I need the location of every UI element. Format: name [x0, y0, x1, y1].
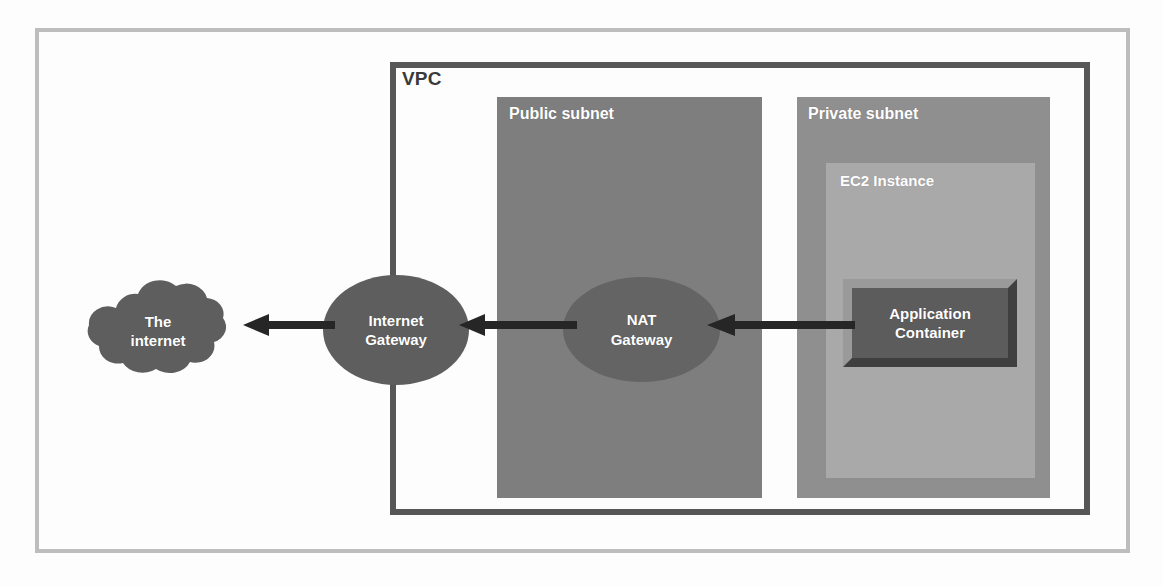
arrow-internet-gateway-to-internet — [243, 314, 335, 336]
arrow-application-container-to-nat-gateway — [707, 314, 855, 336]
nat-gateway-label: NAT Gateway — [611, 310, 673, 349]
application-container-node: Application Container — [843, 279, 1017, 367]
left-arrow-icon — [459, 314, 577, 336]
private-subnet-label: Private subnet — [808, 105, 918, 123]
vpc-label: VPC — [402, 68, 442, 90]
internet-cloud-label: The internet — [72, 278, 244, 384]
diagram-canvas: VPC Public subnet Private subnet EC2 Ins… — [0, 0, 1163, 586]
internet-cloud-node: The internet — [72, 278, 244, 384]
left-arrow-icon — [243, 314, 335, 336]
application-container-label: Application Container — [889, 304, 971, 342]
public-subnet-label: Public subnet — [509, 105, 614, 123]
internet-gateway-label: Internet Gateway — [365, 311, 427, 350]
arrow-nat-gateway-to-internet-gateway — [459, 314, 577, 336]
nat-gateway-node: NAT Gateway — [563, 277, 720, 382]
internet-gateway-node: Internet Gateway — [323, 275, 469, 385]
left-arrow-icon — [707, 314, 855, 336]
ec2-instance-label: EC2 Instance — [840, 172, 934, 189]
